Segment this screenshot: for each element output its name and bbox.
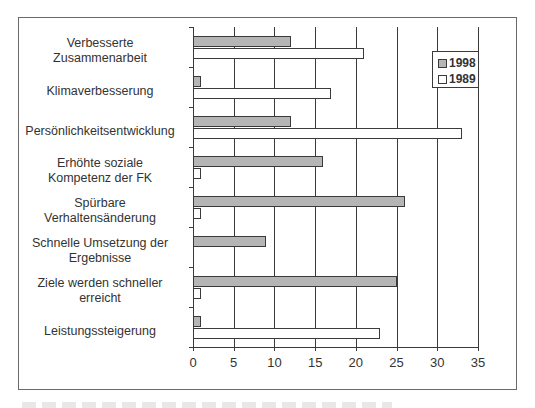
- gridline: [397, 27, 398, 347]
- x-tick-label: 5: [219, 355, 249, 370]
- category-text: VerbesserteZusammenarbeit: [53, 36, 147, 66]
- category-text: Ziele werden schnellererreicht: [37, 276, 162, 306]
- bar-1989: [193, 168, 201, 179]
- category-label: Persönlichkeitsentwicklung: [10, 113, 190, 149]
- category-text: Leistungssteigerung: [44, 324, 156, 339]
- category-label: SpürbareVerhaltensänderung: [10, 193, 190, 229]
- gridline: [274, 27, 275, 347]
- x-tick-label: 10: [259, 355, 289, 370]
- bar-1998: [193, 116, 291, 127]
- gridline: [234, 27, 235, 347]
- x-tick-label: 30: [422, 355, 452, 370]
- category-text: Schnelle Umsetzung derErgebnisse: [32, 236, 168, 266]
- gridline: [356, 27, 357, 347]
- y-tick: [189, 107, 193, 108]
- y-tick: [189, 227, 193, 228]
- legend-swatch-white-icon: [438, 75, 447, 84]
- y-tick: [189, 307, 193, 308]
- legend-label: 1989: [449, 72, 476, 86]
- bar-1989: [193, 88, 331, 99]
- bar-1998: [193, 196, 405, 207]
- x-axis: [193, 347, 478, 348]
- category-label: Erhöhte sozialeKompetenz der FK: [10, 153, 190, 189]
- legend-swatch-gray-icon: [438, 59, 447, 68]
- bar-1998: [193, 236, 266, 247]
- x-tick-label: 25: [382, 355, 412, 370]
- x-tick: [478, 344, 479, 351]
- bar-1998: [193, 316, 201, 327]
- category-label: Klimaverbesserung: [10, 73, 190, 109]
- category-text: Erhöhte sozialeKompetenz der FK: [48, 156, 152, 186]
- bar-1998: [193, 76, 201, 87]
- category-text: Persönlichkeitsentwicklung: [25, 124, 174, 139]
- cropped-caption: [22, 402, 392, 408]
- bar-1989: [193, 48, 364, 59]
- x-tick-label: 20: [341, 355, 371, 370]
- x-tick-label: 0: [178, 355, 208, 370]
- bar-1989: [193, 208, 201, 219]
- y-tick: [189, 147, 193, 148]
- gridline: [315, 27, 316, 347]
- x-tick-label: 35: [463, 355, 493, 370]
- legend: 1998 1989: [432, 51, 479, 88]
- category-label: Ziele werden schnellererreicht: [10, 273, 190, 309]
- bar-1998: [193, 36, 291, 47]
- category-text: SpürbareVerhaltensänderung: [44, 196, 156, 226]
- legend-item-1989: 1989: [438, 72, 476, 86]
- bar-1989: [193, 288, 201, 299]
- bar-1989: [193, 328, 380, 339]
- y-tick: [189, 67, 193, 68]
- category-label: Schnelle Umsetzung derErgebnisse: [10, 233, 190, 269]
- y-tick: [189, 267, 193, 268]
- category-text: Klimaverbesserung: [47, 84, 154, 99]
- category-label: Leistungssteigerung: [10, 313, 190, 349]
- x-tick-label: 15: [300, 355, 330, 370]
- bar-1998: [193, 156, 323, 167]
- category-label: VerbesserteZusammenarbeit: [10, 33, 190, 69]
- legend-label: 1998: [449, 56, 476, 70]
- y-tick: [189, 187, 193, 188]
- bar-1989: [193, 128, 462, 139]
- y-axis: [193, 27, 194, 347]
- legend-item-1998: 1998: [438, 56, 476, 70]
- y-tick: [189, 347, 193, 348]
- y-tick: [189, 27, 193, 28]
- bar-1998: [193, 276, 397, 287]
